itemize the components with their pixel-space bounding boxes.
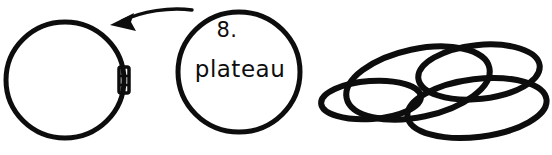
empty-circle bbox=[6, 22, 124, 138]
overlapping-ellipse-cluster bbox=[320, 35, 550, 146]
curved-arrow-icon bbox=[110, 9, 192, 31]
sketch-drawing: 8. plateau bbox=[0, 0, 552, 155]
sketch-canvas: 8. plateau bbox=[0, 0, 552, 155]
ellipse-bottom-right bbox=[404, 71, 550, 146]
node-word-label: plateau bbox=[195, 56, 285, 82]
node-number-label: 8. bbox=[216, 18, 237, 42]
